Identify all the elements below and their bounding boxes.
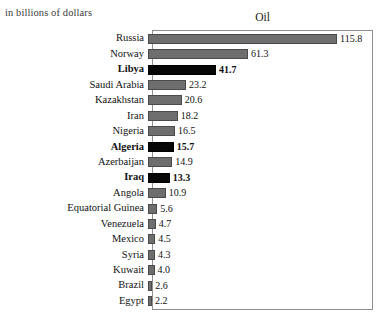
bar-value-label: 2.2: [152, 296, 168, 306]
bar-row-track: 16.5: [148, 124, 381, 139]
bar-value-label: 18.2: [178, 111, 199, 121]
bar-row: Mexico4.5: [0, 232, 381, 247]
bar-value-label: 4.7: [156, 219, 172, 229]
bar: [148, 219, 156, 229]
bar-row-label: Azerbaijan: [0, 157, 148, 168]
bar: [148, 157, 172, 167]
bar-value-label: 20.6: [182, 95, 203, 105]
bar-value-label: 5.6: [157, 204, 173, 214]
chart-title: Oil: [152, 11, 373, 23]
bar-row-label: Kuwait: [0, 265, 148, 276]
bar-row: Equatorial Guinea5.6: [0, 201, 381, 216]
bar-row-label: Russia: [0, 33, 148, 44]
bar-row-label: Norway: [0, 49, 148, 60]
chart-page: in billions of dollars Oil Russia115.8No…: [0, 0, 381, 323]
bar-value-label: 4.5: [155, 234, 171, 244]
bar-value-label: 23.2: [186, 80, 207, 90]
bar-row-label: Libya: [0, 64, 148, 75]
bar: [148, 204, 157, 214]
bar-row: Nigeria16.5: [0, 124, 381, 139]
bar-row-track: 4.0: [148, 263, 381, 278]
bar: [148, 111, 178, 121]
bar-row-label: Venezuela: [0, 219, 148, 230]
bar-row-label: Kazakhstan: [0, 95, 148, 106]
bar-row-track: 14.9: [148, 155, 381, 170]
bar-row-track: 2.2: [148, 293, 381, 308]
bar-row: Libya41.7: [0, 62, 381, 77]
bar-row-label: Algeria: [0, 142, 148, 153]
bar-row-label: Nigeria: [0, 126, 148, 137]
bar-row-track: 5.6: [148, 201, 381, 216]
bar-row-label: Syria: [0, 250, 148, 261]
bar-row: Algeria15.7: [0, 139, 381, 154]
bar-value-label: 13.3: [170, 173, 191, 183]
bar-row: Azerbaijan14.9: [0, 155, 381, 170]
bar-row: Brazil2.6: [0, 278, 381, 293]
bar-row-label: Iran: [0, 111, 148, 122]
bar: [148, 173, 170, 183]
bar: [148, 34, 337, 44]
bar-row-track: 20.6: [148, 93, 381, 108]
bar-value-label: 2.6: [152, 281, 168, 291]
bar-rows: Russia115.8Norway61.3Libya41.7Saudi Arab…: [0, 31, 381, 309]
bar-row-track: 4.3: [148, 247, 381, 262]
bar: [148, 250, 155, 260]
bar-row-track: 4.7: [148, 216, 381, 231]
bar-row-track: 10.9: [148, 185, 381, 200]
bar-row: Angola10.9: [0, 185, 381, 200]
bar-value-label: 115.8: [337, 34, 362, 44]
bar-value-label: 10.9: [166, 188, 187, 198]
bar-row: Iraq13.3: [0, 170, 381, 185]
bar-value-label: 41.7: [216, 65, 237, 75]
bar: [148, 142, 174, 152]
bar: [148, 95, 182, 105]
bar-row-track: 15.7: [148, 139, 381, 154]
bar: [148, 234, 155, 244]
bar-row: Iran18.2: [0, 108, 381, 123]
bar-row-label: Egypt: [0, 296, 148, 307]
bar: [148, 188, 166, 198]
bar-row-track: 41.7: [148, 62, 381, 77]
bar-row: Venezuela4.7: [0, 216, 381, 231]
bar-row-label: Mexico: [0, 234, 148, 245]
bar-value-label: 16.5: [175, 126, 196, 136]
bar-value-label: 14.9: [172, 157, 193, 167]
bar-row: Kuwait4.0: [0, 263, 381, 278]
bar: [148, 65, 216, 75]
bar-row-track: 23.2: [148, 77, 381, 92]
bar-row-label: Brazil: [0, 280, 148, 291]
bar-row: Egypt2.2: [0, 293, 381, 308]
bar-row: Saudi Arabia23.2: [0, 77, 381, 92]
bar-row-track: 115.8: [148, 31, 381, 46]
bar-row-track: 18.2: [148, 108, 381, 123]
bar-row-label: Equatorial Guinea: [0, 203, 148, 214]
bar-row-label: Angola: [0, 188, 148, 199]
bar-row-label: Saudi Arabia: [0, 80, 148, 91]
bar-row-track: 61.3: [148, 46, 381, 61]
bar: [148, 126, 175, 136]
bar-row: Syria4.3: [0, 247, 381, 262]
bar-row: Kazakhstan20.6: [0, 93, 381, 108]
bar: [148, 80, 186, 90]
bar-value-label: 15.7: [174, 142, 195, 152]
bar-value-label: 61.3: [248, 49, 269, 59]
bar-row-track: 2.6: [148, 278, 381, 293]
bar: [148, 49, 248, 59]
bar-value-label: 4.3: [155, 250, 171, 260]
bar-row-label: Iraq: [0, 172, 148, 183]
bar-row: Russia115.8: [0, 31, 381, 46]
page-bleed-artifact: [0, 0, 381, 6]
bar-row-track: 13.3: [148, 170, 381, 185]
bar-row: Norway61.3: [0, 46, 381, 61]
units-note: in billions of dollars: [5, 7, 92, 18]
bar-row-track: 4.5: [148, 232, 381, 247]
bar-value-label: 4.0: [155, 265, 171, 275]
